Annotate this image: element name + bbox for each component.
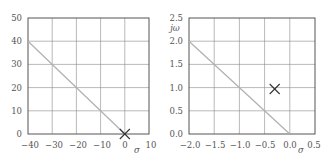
right-ytick: 1.5 bbox=[169, 59, 183, 69]
right-xtick: −1.5 bbox=[205, 140, 226, 150]
left-xtick: −40 bbox=[21, 140, 39, 150]
left-ytick: 0 bbox=[17, 129, 22, 139]
right-xtick: −0.5 bbox=[255, 140, 276, 150]
left-grid bbox=[28, 18, 149, 134]
right-xtick: −1.0 bbox=[230, 140, 251, 150]
left-plot-frame bbox=[28, 18, 149, 134]
right-xtick: 0.0 bbox=[283, 140, 297, 150]
right-xtick: 0.5 bbox=[307, 140, 321, 150]
right-xtick: −2.0 bbox=[180, 140, 201, 150]
right-ytick: 2.0 bbox=[169, 36, 183, 46]
left-y-ticks: 0 10 20 30 40 50 bbox=[11, 13, 22, 139]
left-chart: 0 10 20 30 40 50 −40 −30 −20 −10 0 10 σ bbox=[11, 13, 156, 155]
right-grid bbox=[189, 18, 315, 134]
left-ytick: 20 bbox=[11, 83, 22, 93]
left-xtick: −10 bbox=[93, 140, 111, 150]
charts-canvas: 0 10 20 30 40 50 −40 −30 −20 −10 0 10 σ bbox=[0, 0, 323, 162]
left-ytick: 50 bbox=[11, 13, 22, 23]
right-x-marker-icon bbox=[270, 84, 280, 94]
left-ytick: 30 bbox=[11, 59, 22, 69]
right-ylabel: jω bbox=[168, 23, 180, 33]
right-ytick: 0.0 bbox=[169, 129, 183, 139]
right-chart: 0.0 0.5 1.0 1.5 2.0 2.5 jω −2.0 −1.5 −1.… bbox=[168, 13, 321, 155]
left-xtick: −20 bbox=[69, 140, 87, 150]
right-ytick: 2.5 bbox=[169, 13, 183, 23]
right-xlabel: σ bbox=[298, 145, 304, 155]
left-ytick: 40 bbox=[11, 36, 22, 46]
right-ytick: 1.0 bbox=[169, 83, 183, 93]
left-xtick: 0 bbox=[122, 140, 127, 150]
right-plot-frame bbox=[189, 18, 315, 134]
left-xtick: 10 bbox=[146, 140, 157, 150]
right-ytick: 0.5 bbox=[169, 106, 183, 116]
left-ytick: 10 bbox=[11, 106, 22, 116]
left-xlabel: σ bbox=[134, 145, 140, 155]
left-xtick: −30 bbox=[45, 140, 63, 150]
